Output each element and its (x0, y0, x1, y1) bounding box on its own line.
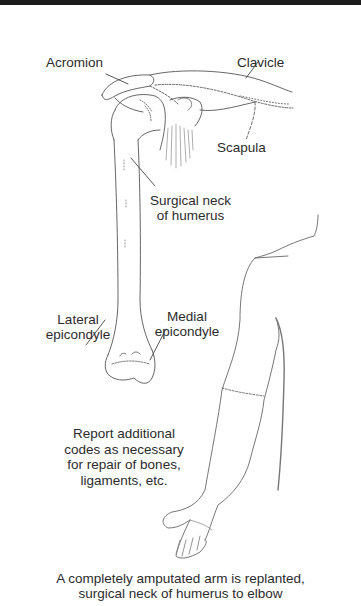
note-line4: ligaments, etc. (54, 473, 194, 489)
label-surgical-neck-line2: of humerus (150, 208, 231, 223)
label-medial-epicondyle-line2: epicondyle (146, 324, 228, 339)
figure-caption: A completely amputated arm is replanted,… (0, 571, 361, 601)
label-medial-epicondyle-line1: Medial (146, 309, 228, 324)
label-acromion: Acromion (46, 55, 103, 70)
caption-line2: surgical neck of humerus to elbow (0, 586, 361, 601)
label-medial-epicondyle: Medial epicondyle (146, 309, 228, 339)
anatomy-illustration (0, 0, 361, 606)
note-line3: for repair of bones, (54, 457, 194, 473)
arm-outline (163, 215, 318, 558)
label-surgical-neck: Surgical neck of humerus (150, 193, 231, 223)
label-lateral-epicondyle: Lateral epicondyle (38, 312, 118, 342)
note-line2: codes as necessary (54, 442, 194, 458)
note-additional-codes: Report additional codes as necessary for… (54, 426, 194, 488)
label-lateral-epicondyle-line2: epicondyle (38, 327, 118, 342)
note-line1: Report additional (54, 426, 194, 442)
scapula-bone (166, 97, 255, 168)
label-clavicle: Clavicle (237, 55, 284, 70)
caption-line1: A completely amputated arm is replanted, (0, 571, 361, 586)
label-surgical-neck-line1: Surgical neck (150, 193, 231, 208)
acromion-bone (102, 75, 178, 112)
label-lateral-epicondyle-line1: Lateral (38, 312, 118, 327)
label-scapula: Scapula (217, 140, 266, 155)
clavicle-bone (150, 71, 293, 108)
